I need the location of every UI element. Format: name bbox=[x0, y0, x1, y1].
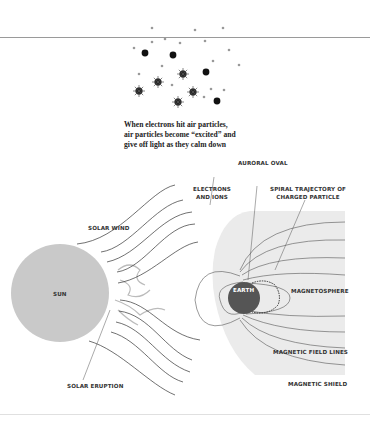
particles-illustration bbox=[133, 27, 241, 108]
label-spiral-line-2: CHARGED PARTICLE bbox=[268, 194, 348, 200]
label-earth: EARTH bbox=[233, 287, 254, 293]
label-electrons: ELECTRONS bbox=[190, 186, 234, 192]
label-auroral-oval: AURORAL OVAL bbox=[238, 160, 288, 166]
label-sun: SUN bbox=[53, 291, 67, 297]
label-magnetosphere: MAGNETOSPHERE bbox=[291, 288, 349, 294]
caption-line-2: air particles become “excited” and bbox=[124, 130, 244, 140]
caption-line-3: give off light as they calm down bbox=[124, 140, 244, 150]
label-magnetic-field-lines: MAGNETIC FIELD LINES bbox=[273, 349, 348, 355]
label-spiral-trajectory: SPIRAL TRAJECTORY OF CHARGED PARTICLE bbox=[268, 186, 348, 200]
solar-eruption-wisps bbox=[115, 265, 165, 325]
label-electrons-ions: ELECTRONS AND IONS bbox=[190, 186, 234, 200]
label-and-ions: AND IONS bbox=[190, 194, 234, 200]
label-magnetic-shield: MAGNETIC SHIELD bbox=[288, 381, 347, 387]
label-solar-wind: SOLAR WIND bbox=[88, 225, 130, 231]
label-spiral-line-1: SPIRAL TRAJECTORY OF bbox=[268, 186, 348, 192]
caption-line-1: When electrons hit air particles, bbox=[124, 120, 244, 130]
label-solar-eruption: SOLAR ERUPTION bbox=[67, 383, 123, 389]
caption-text: When electrons hit air particles, air pa… bbox=[124, 120, 244, 150]
aurora-diagram bbox=[0, 0, 370, 426]
